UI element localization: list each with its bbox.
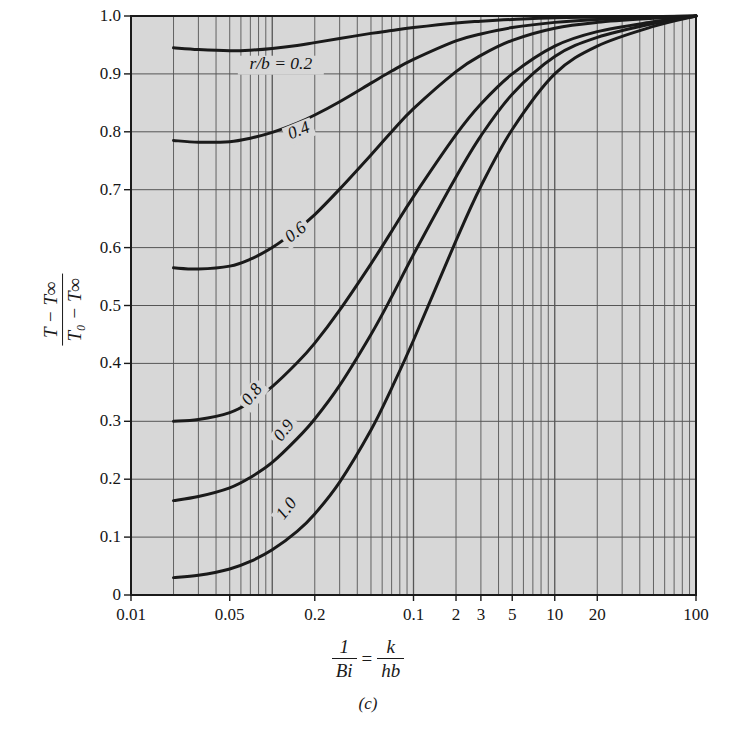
x-axis-title-right-denominator: hb	[377, 659, 404, 681]
x-axis-tick-label: 20	[589, 605, 606, 625]
y-axis-tick-label: 0.6	[73, 238, 121, 258]
curve-label: r/b = 0.2	[249, 53, 312, 73]
x-axis-title-left-numerator: 1	[332, 636, 357, 659]
y-axis-tick-label: 0	[73, 585, 121, 605]
y-axis-tick-label: 0.4	[73, 353, 121, 373]
x-axis-tick-label: 3	[477, 605, 486, 625]
x-axis-tick-label: 10	[546, 605, 563, 625]
y-axis-tick-label: 0.9	[73, 64, 121, 84]
x-axis-tick-label: 5	[508, 605, 517, 625]
y-axis-tick-label: 0.1	[73, 527, 121, 547]
x-axis-tick-label: 2	[452, 605, 461, 625]
x-axis-tick-label: 0.2	[304, 605, 325, 625]
y-axis-tick-label: 0.5	[73, 296, 121, 316]
heisler-chart-figure: r/b = 0.20.40.60.80.91.0 T − T∞ T₀ − T∞ …	[0, 0, 736, 732]
y-axis-tick-label: 0.8	[73, 122, 121, 142]
x-axis-tick-label: 100	[683, 605, 709, 625]
y-axis-tick-label: 0.3	[73, 411, 121, 431]
x-axis-title-left-denominator: Bi	[332, 659, 357, 681]
x-axis-title: 1 Bi = k hb	[0, 636, 736, 682]
y-axis-tick-label: 1.0	[73, 6, 121, 26]
panel-caption: (c)	[0, 694, 736, 714]
y-axis-tick-label: 0.7	[73, 180, 121, 200]
x-axis-tick-label: 0.05	[215, 605, 245, 625]
y-axis-tick-label: 0.2	[73, 469, 121, 489]
y-axis-title-numerator: T − T∞	[40, 274, 63, 346]
x-axis-tick-label: 0.1	[403, 605, 424, 625]
x-axis-tick-label: 0.01	[116, 605, 146, 625]
x-axis-title-equals: =	[357, 648, 378, 669]
x-axis-title-right-numerator: k	[377, 636, 404, 659]
